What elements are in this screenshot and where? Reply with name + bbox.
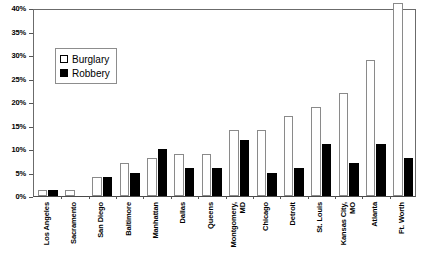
x-axis-tick-mark <box>116 196 117 199</box>
bar-group <box>335 10 362 196</box>
bar-robbery <box>212 168 222 196</box>
bar-group <box>253 10 280 196</box>
x-axis-tick-label: Kansas City,MO <box>339 202 356 245</box>
y-axis-tick-label: 40% <box>0 5 26 13</box>
y-axis-tick-label: 35% <box>0 29 26 37</box>
bar-group <box>280 10 307 196</box>
bar-robbery <box>404 158 414 196</box>
x-axis-tick-mark <box>308 196 309 199</box>
x-axis-tick-label: Ft. Worth <box>398 202 407 234</box>
bar-robbery <box>48 190 58 196</box>
x-axis-label-slot: Ft. Worth <box>389 200 416 270</box>
x-axis-tick-label: Atlanta <box>371 202 380 227</box>
x-axis-label-slot: Manhattan <box>142 200 169 270</box>
white-square-outline-icon <box>60 55 68 63</box>
y-axis-tick-label: 25% <box>0 76 26 84</box>
bar-robbery <box>267 173 277 197</box>
bar-burglary <box>366 60 376 196</box>
x-axis-tick-label: Manhattan <box>152 202 161 239</box>
y-axis-tick-label: 20% <box>0 99 26 107</box>
bar-chart: 0%5%10%15%20%25%30%35%40% Burglary Robbe… <box>0 0 422 270</box>
y-axis: 0%5%10%15%20%25%30%35%40% <box>0 0 30 200</box>
x-axis-tick-mark <box>390 196 391 199</box>
bar-robbery <box>376 144 386 196</box>
x-axis-tick-mark <box>226 196 227 199</box>
x-axis-tick-mark <box>61 196 62 199</box>
bar-group <box>171 10 198 196</box>
bar-group <box>198 10 225 196</box>
y-axis-tick-label: 0% <box>0 193 26 201</box>
x-axis: Los AngelesSacramentoSan DiegoBaltimoreM… <box>33 200 416 270</box>
bar-robbery <box>103 177 113 196</box>
x-axis-label-slot: Montgomery,MD <box>225 200 252 270</box>
x-axis-label-slot: Los Angeles <box>33 200 60 270</box>
bar-robbery <box>130 173 140 197</box>
y-axis-tick-label: 10% <box>0 146 26 154</box>
y-axis-tick-label: 30% <box>0 52 26 60</box>
x-axis-label-slot: St. Louis <box>307 200 334 270</box>
bar-robbery <box>158 149 168 196</box>
legend-item-robbery: Robbery <box>60 66 110 80</box>
x-axis-tick-mark <box>198 196 199 199</box>
bar-burglary <box>284 116 294 196</box>
x-axis-tick-mark <box>171 196 172 199</box>
x-axis-label-slot: Kansas City,MO <box>334 200 361 270</box>
x-axis-label-slot: Queens <box>197 200 224 270</box>
bar-burglary <box>202 154 212 196</box>
x-axis-tick-label: Montgomery,MD <box>230 202 247 247</box>
x-axis-tick-mark <box>362 196 363 199</box>
bar-group <box>362 10 389 196</box>
bar-burglary <box>147 158 157 196</box>
x-axis-label-slot: Dallas <box>170 200 197 270</box>
bar-group <box>226 10 253 196</box>
x-axis-label-slot: Baltimore <box>115 200 142 270</box>
legend-item-label: Robbery <box>72 68 110 79</box>
x-axis-tick-label: St. Louis <box>316 202 325 233</box>
bars-layer <box>34 10 415 196</box>
x-axis-label-slot: Detroit <box>279 200 306 270</box>
bar-group <box>143 10 170 196</box>
bar-group <box>390 10 417 196</box>
bar-burglary <box>65 190 75 196</box>
bar-robbery <box>294 168 304 196</box>
bar-robbery <box>349 163 359 196</box>
bar-group <box>61 10 88 196</box>
bar-burglary <box>92 177 102 196</box>
x-axis-tick-label: Los Angeles <box>42 202 51 245</box>
bar-burglary <box>257 130 267 196</box>
bar-group <box>89 10 116 196</box>
x-axis-tick-label: Chicago <box>261 202 270 231</box>
y-axis-tick-label: 15% <box>0 123 26 131</box>
bar-burglary <box>311 107 321 196</box>
x-axis-label-slot: San Diego <box>88 200 115 270</box>
legend-item-burglary: Burglary <box>60 52 110 66</box>
x-axis-tick-label: Dallas <box>179 202 188 224</box>
bar-robbery <box>240 140 250 196</box>
bar-burglary <box>38 190 48 196</box>
x-axis-tick-label: Sacramento <box>70 202 79 244</box>
plot-area <box>33 9 416 197</box>
black-square-icon <box>60 69 68 77</box>
x-axis-tick-label: Baltimore <box>124 202 133 236</box>
bar-group <box>34 10 61 196</box>
y-axis-tick-mark <box>29 197 33 198</box>
bar-group <box>116 10 143 196</box>
bar-group <box>308 10 335 196</box>
x-axis-tick-label: Detroit <box>289 202 298 225</box>
bar-burglary <box>229 130 239 196</box>
x-axis-tick-mark <box>143 196 144 199</box>
bar-burglary <box>120 163 130 196</box>
x-axis-tick-label: San Diego <box>97 202 106 238</box>
x-axis-tick-mark <box>253 196 254 199</box>
legend-item-label: Burglary <box>72 54 109 65</box>
bar-burglary <box>339 93 349 196</box>
bar-robbery <box>185 168 195 196</box>
chart-legend: Burglary Robbery <box>55 48 117 84</box>
x-axis-label-slot: Atlanta <box>361 200 388 270</box>
x-axis-tick-label: Queens <box>207 202 216 229</box>
bar-burglary <box>174 154 184 196</box>
bar-robbery <box>322 144 332 196</box>
x-axis-tick-mark <box>335 196 336 199</box>
x-axis-tick-mark <box>280 196 281 199</box>
y-axis-tick-label: 5% <box>0 170 26 178</box>
